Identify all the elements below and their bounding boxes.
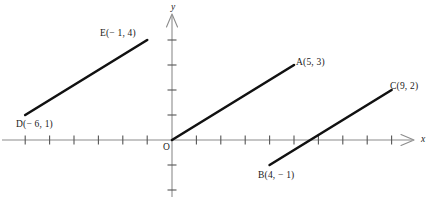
coordinate-plane-figure: E(− 1, 4) D(− 6, 1) A(5, 3) C(9, 2) B(4,… — [0, 0, 431, 199]
point-label-C: C(9, 2) — [390, 81, 418, 91]
x-axis-group — [2, 135, 414, 146]
segment-DE — [25, 40, 147, 115]
segment-OA — [172, 65, 294, 140]
point-label-E: E(− 1, 4) — [100, 28, 136, 38]
plot-canvas — [0, 0, 431, 199]
x-axis-label: x — [421, 134, 425, 144]
y-axis-label: y — [171, 2, 175, 12]
point-label-B: B(4, − 1) — [258, 170, 294, 180]
origin-label: O — [163, 142, 170, 152]
point-label-D: D(− 6, 1) — [16, 119, 53, 129]
segment-BC — [270, 90, 392, 165]
segments-group — [25, 40, 391, 165]
y-axis-group — [167, 14, 178, 197]
point-label-A: A(5, 3) — [296, 57, 325, 67]
